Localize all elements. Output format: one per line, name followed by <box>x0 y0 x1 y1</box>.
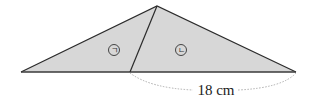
measurement-label: 18 cm <box>197 82 234 98</box>
triangle-diagram: ㄱ ㄴ 18 cm <box>0 0 312 107</box>
measurement-arc-right <box>238 73 296 90</box>
region-label-nieun-text: ㄴ <box>178 46 185 55</box>
measurement-arc-left <box>130 73 193 90</box>
triangle-region-fill <box>21 6 296 72</box>
region-label-giyeok-text: ㄱ <box>111 46 118 55</box>
